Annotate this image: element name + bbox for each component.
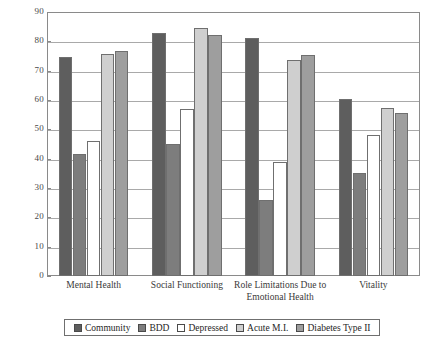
bar	[115, 51, 129, 276]
legend-item: Depressed	[177, 323, 228, 333]
bar	[353, 173, 367, 276]
y-axis-tick-label: 30	[4, 183, 44, 192]
x-axis-label-line: Vitality	[313, 280, 434, 292]
legend-swatch-icon	[236, 324, 244, 332]
legend-label: Depressed	[188, 323, 228, 333]
legend-label: BDD	[149, 323, 169, 333]
bars-layer	[47, 12, 420, 276]
bar	[59, 57, 73, 276]
bar-chart: 0102030405060708090 Mental HealthSocial …	[0, 0, 434, 344]
bar	[367, 135, 381, 276]
bar	[180, 109, 194, 276]
bar	[208, 35, 222, 276]
bar	[166, 144, 180, 276]
bar	[245, 38, 259, 276]
legend-item: BDD	[138, 323, 169, 333]
bar	[301, 55, 315, 276]
y-axis-tick-label: 80	[4, 36, 44, 45]
legend-label: Diabetes Type II	[307, 323, 370, 333]
bar	[194, 28, 208, 276]
y-axis-tick-label: 0	[4, 271, 44, 280]
y-axis-tick-label: 20	[4, 212, 44, 221]
y-axis-tick-label: 50	[4, 124, 44, 133]
legend-label: Acute M.I.	[247, 323, 288, 333]
legend-label: Community	[85, 323, 130, 333]
bar	[87, 141, 101, 276]
y-axis-tick-label: 60	[4, 95, 44, 104]
x-axis-category-label: Vitality	[313, 280, 434, 292]
y-axis: 0102030405060708090	[0, 0, 44, 344]
y-axis-tick-label: 40	[4, 154, 44, 163]
legend-item: Community	[74, 323, 130, 333]
legend-swatch-icon	[138, 324, 146, 332]
x-axis-labels: Mental HealthSocial FunctioningRole Limi…	[47, 280, 420, 314]
bar	[381, 108, 395, 276]
legend-swatch-icon	[177, 324, 185, 332]
legend-item: Acute M.I.	[236, 323, 288, 333]
legend-swatch-icon	[74, 324, 82, 332]
legend-item: Diabetes Type II	[296, 323, 370, 333]
bar	[273, 162, 287, 276]
x-axis-label-line: Emotional Health	[220, 292, 341, 304]
y-axis-tick-label: 90	[4, 7, 44, 16]
legend: CommunityBDDDepressedAcute M.I.Diabetes …	[64, 319, 380, 336]
bar	[101, 54, 115, 276]
bar	[395, 113, 409, 276]
bar	[339, 99, 353, 276]
bar	[152, 33, 166, 276]
bar	[73, 154, 87, 276]
bar	[287, 60, 301, 276]
y-axis-tick-label: 10	[4, 242, 44, 251]
y-axis-tick-mark	[47, 276, 51, 277]
legend-swatch-icon	[296, 324, 304, 332]
bar	[259, 200, 273, 276]
y-axis-tick-label: 70	[4, 66, 44, 75]
